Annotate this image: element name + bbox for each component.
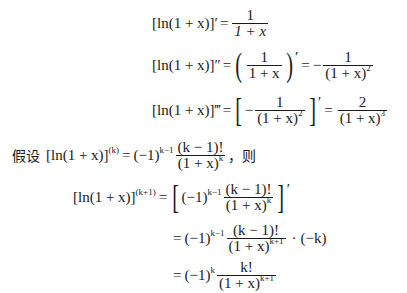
numerator: 1 (274, 95, 286, 110)
induction-step-3: = (−1)k k! (1 + x)k+1 (173, 255, 278, 293)
minus-sign: − (245, 102, 253, 119)
numerator: 1 (245, 8, 257, 23)
assumption-statement: 假设 [ln(1 + x)](k) = (−1)k−1 (k − 1)! (1 … (12, 135, 256, 175)
prime: ′ (318, 94, 321, 111)
denominator: (1 + x)2 (323, 65, 372, 81)
lhs: [ln(1 + x)]‴ (152, 102, 221, 119)
numerator: 2 (357, 95, 369, 110)
lhs: [ln(1 + x)]′ (152, 15, 218, 32)
prime: ′ (295, 49, 298, 66)
lhs: [ln(1 + x)]″ (152, 57, 221, 74)
numerator: k! (238, 260, 255, 275)
denominator: (1 + x)k+1 (217, 275, 276, 291)
induction-step-1: [ln(1 + x)](k+1) = [ (−1)k−1 (k − 1)! (1… (73, 177, 290, 217)
denominator: (1 + x)k+1 (227, 238, 286, 254)
then-label: ，则 (228, 145, 256, 165)
assume-label: 假设 (12, 145, 40, 165)
left-bracket: [ (172, 180, 179, 214)
fraction: (k − 1)! (1 + x)k+1 (227, 223, 286, 254)
equals-sign: = (173, 230, 181, 247)
fraction: 1 (1 + x)2 (323, 50, 372, 81)
numerator: 1 (342, 50, 354, 65)
equation-first-derivative: [ln(1 + x)]′ = 1 1 + x (152, 3, 270, 43)
right-paren: ) (286, 48, 293, 82)
denominator: (1 + x)3 (338, 110, 387, 126)
equals-sign: = (159, 189, 167, 206)
lhs: [ln(1 + x)](k) (46, 147, 119, 164)
right-bracket: ] (309, 93, 316, 127)
induction-step-2: = (−1)k−1 (k − 1)! (1 + x)k+1 · (−k) (173, 218, 326, 258)
fraction: (k − 1)! (1 + x)k (224, 182, 274, 213)
equation-third-derivative: [ln(1 + x)]‴ = [ − 1 (1 + x)2 ] ′ = 2 (1… (152, 90, 389, 130)
lhs: [ln(1 + x)](k+1) (73, 189, 156, 206)
equals-sign: = (173, 267, 181, 284)
equals-sign: = (220, 15, 228, 32)
equals-sign: = (122, 147, 130, 164)
factor: (−k) (301, 230, 327, 247)
equals-sign: = (301, 57, 309, 74)
fraction: (k − 1)! (1 + x)k (176, 140, 226, 171)
right-bracket: ] (278, 180, 285, 214)
inner-fraction: 1 (1 + x)2 (255, 95, 304, 126)
equals-sign: = (223, 102, 231, 119)
denominator: (1 + x)k (176, 155, 225, 171)
left-bracket: [ (236, 93, 243, 127)
equation-second-derivative: [ln(1 + x)]″ = ( 1 1 + x ) ′ = − 1 (1 + … (152, 45, 375, 85)
prime: ′ (287, 181, 290, 198)
coefficient: (−1)k−1 (181, 189, 221, 206)
inner-fraction: 1 1 + x (247, 50, 282, 81)
fraction: 1 1 + x (232, 8, 268, 39)
denominator: (1 + x)2 (255, 110, 304, 126)
coefficient: (−1)k−1 (184, 230, 224, 247)
numerator: 1 (258, 50, 270, 65)
equals-sign: = (324, 102, 332, 119)
denominator: 1 + x (247, 65, 282, 81)
minus-sign: − (313, 57, 321, 74)
coefficient: (−1)k−1 (134, 147, 174, 164)
multiplication-dot: · (292, 230, 297, 247)
denominator: (1 + x)k (224, 197, 273, 213)
fraction: 2 (1 + x)3 (338, 95, 387, 126)
left-paren: ( (236, 48, 243, 82)
fraction: k! (1 + x)k+1 (217, 260, 276, 291)
coefficient: (−1)k (184, 267, 214, 284)
equals-sign: = (223, 57, 231, 74)
denominator: 1 + x (232, 23, 268, 39)
